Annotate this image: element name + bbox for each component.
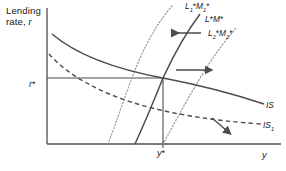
y-axis-tick-label: r* [29,79,36,89]
x-axis-tick-label: y* [157,148,165,158]
y-axis-title-line2: rate, r [6,17,41,28]
plot-canvas [0,0,286,171]
y-axis-title: Lending rate, r [6,6,41,27]
curve-is-shifted [49,54,261,124]
curve-label-lm-baseline: L*M* [205,15,223,24]
x-axis-title: y [262,150,267,160]
curve-lm-shifted-left [108,6,172,144]
curve-label-lm-shifted-left: L1*M1* [185,2,210,13]
curve-label-is-baseline: IS [266,101,274,110]
curve-label-is-shifted: IS1 [263,121,274,132]
curve-label-lm-shifted-right: L2*M2* [208,29,233,40]
is-lm-diagram: Lending rate, r y r* y* L1*M1* L*M* L2*M… [0,0,286,171]
curve-is-baseline [52,34,264,104]
